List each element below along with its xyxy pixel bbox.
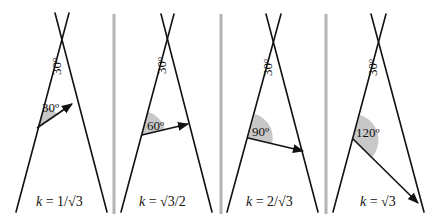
apex-angle-label: 30º bbox=[365, 59, 380, 76]
wedge-left-line bbox=[121, 14, 174, 212]
wedge-right-line bbox=[161, 14, 212, 212]
apex-angle-label: 30º bbox=[154, 57, 169, 74]
panel-1: 30º 30º k = 1/√3 bbox=[16, 13, 107, 212]
k-expression: = 1/√3 bbox=[42, 194, 82, 209]
panel-3: 30º 90º k = 2/√3 bbox=[227, 14, 318, 212]
panel-2: 30º 60º k = √3/2 bbox=[121, 14, 212, 212]
k-value-label: k = 2/√3 bbox=[246, 194, 293, 209]
ray-arrow bbox=[248, 138, 303, 151]
incidence-angle-label: 90º bbox=[252, 124, 269, 139]
wedge-right-line bbox=[55, 13, 107, 212]
incidence-angle-label: 30º bbox=[42, 100, 59, 115]
apex-angle-label: 30º bbox=[260, 59, 275, 76]
wedge-right-line bbox=[266, 14, 318, 212]
wedge-diagram-figure: 30º 30º k = 1/√3 30º 60º k = √3/2 30º 90… bbox=[0, 0, 439, 224]
k-value-label: k = √3 bbox=[360, 194, 396, 209]
incidence-angle-label: 120º bbox=[356, 125, 380, 140]
wedge-left-line bbox=[227, 14, 281, 212]
k-expression: = √3 bbox=[366, 194, 396, 209]
k-value-label: k = 1/√3 bbox=[36, 194, 83, 209]
panel-4: 30º 120º k = √3 bbox=[333, 14, 424, 212]
k-value-label: k = √3/2 bbox=[139, 194, 186, 209]
k-expression: = 2/√3 bbox=[252, 194, 292, 209]
k-expression: = √3/2 bbox=[145, 194, 185, 209]
apex-angle-label: 30º bbox=[49, 58, 64, 75]
wedge-left-line bbox=[333, 14, 386, 212]
incidence-angle-label: 60º bbox=[147, 118, 164, 133]
